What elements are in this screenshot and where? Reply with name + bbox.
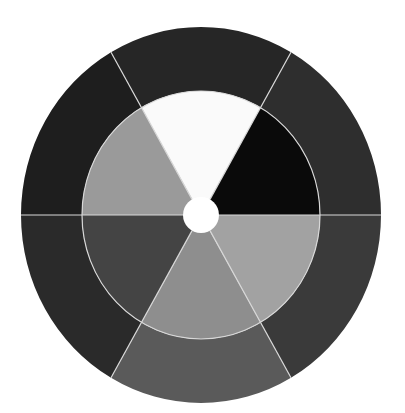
sector-wheel xyxy=(0,0,405,413)
center-hub xyxy=(183,197,219,233)
